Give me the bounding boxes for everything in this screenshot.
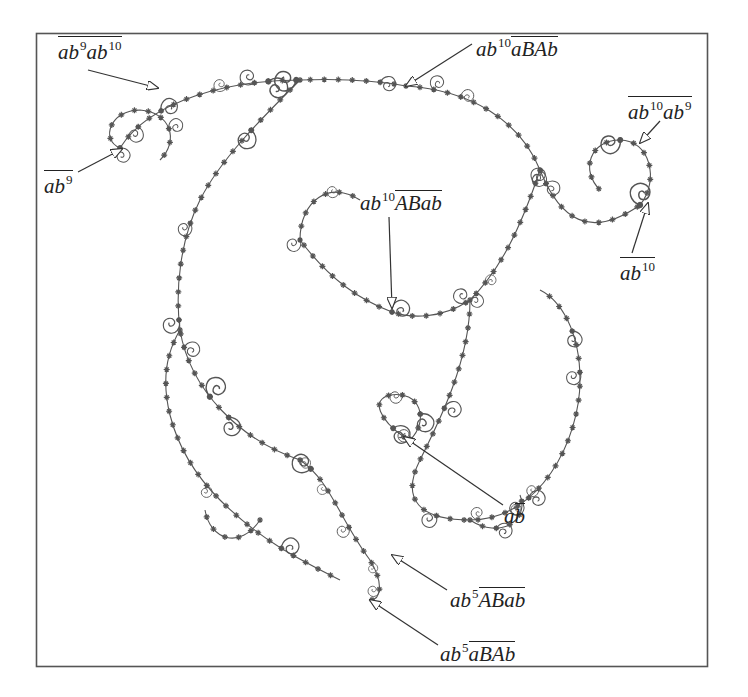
leaf-ornament xyxy=(381,415,387,421)
spiral-ornament xyxy=(451,286,473,307)
pointer-arrow xyxy=(632,203,648,253)
limit-curve xyxy=(300,240,392,312)
leaf-ornament xyxy=(166,408,172,414)
leaf-ornament xyxy=(386,392,392,398)
leaf-ornament xyxy=(363,78,369,84)
leaf-ornament xyxy=(609,217,615,223)
leaf-ornament xyxy=(364,297,370,303)
leaf-ornament xyxy=(298,223,304,229)
limit-curve xyxy=(590,140,651,205)
leaf-ornament xyxy=(576,397,582,403)
leaf-ornament xyxy=(528,193,534,199)
leaf-ornament xyxy=(436,418,442,424)
spiral-ornament xyxy=(526,489,547,508)
leaf-ornament xyxy=(118,112,124,118)
spiral-ornament xyxy=(366,560,380,574)
leaf-ornament xyxy=(573,411,579,417)
leaf-ornament xyxy=(164,367,170,373)
leaf-ornament xyxy=(444,90,450,96)
label-ab-bar: ab xyxy=(504,503,525,527)
leaf-ornament xyxy=(170,422,176,428)
leaf-ornament xyxy=(307,77,313,83)
leaf-ornament xyxy=(460,352,466,358)
spiral-ornament xyxy=(176,218,195,238)
arrows xyxy=(78,44,660,645)
leaf-ornament xyxy=(327,572,333,578)
leaf-ornament xyxy=(466,311,472,317)
pointer-arrow xyxy=(78,149,122,172)
limit-curve xyxy=(120,79,406,148)
leaf-ornament xyxy=(271,446,277,452)
leaf-ornament xyxy=(570,425,576,431)
pointer-arrow xyxy=(404,437,503,505)
pointer-arrow xyxy=(406,44,472,86)
leaf-ornament xyxy=(465,325,471,331)
leaf-ornament xyxy=(489,514,495,520)
leaf-ornament xyxy=(321,76,327,82)
leaf-ornament xyxy=(353,536,359,542)
leaf-ornament xyxy=(480,523,486,529)
pointer-arrow xyxy=(370,600,438,645)
leaf-ornament xyxy=(197,91,203,97)
limit-curve xyxy=(300,460,379,600)
leaf-ornament xyxy=(437,310,443,316)
pointer-arrow xyxy=(640,121,660,143)
leaf-ornament xyxy=(412,496,418,502)
leaf-ornament xyxy=(417,84,423,90)
spiral-ornament xyxy=(203,375,227,402)
leaf-ornament xyxy=(463,339,469,345)
leaf-ornament xyxy=(423,313,429,319)
leaf-ornament xyxy=(236,534,242,540)
spiral-ornament xyxy=(277,535,302,558)
leaf-ornament xyxy=(171,339,177,345)
leaf-ornament xyxy=(588,174,594,180)
label-ab9ab10: ab9ab10 xyxy=(58,36,122,63)
leaf-ornament xyxy=(517,219,523,225)
leaf-ornament xyxy=(498,257,504,263)
leaf-ornament xyxy=(109,122,115,128)
leaf-ornament xyxy=(505,245,511,251)
leaf-ornament xyxy=(164,394,170,400)
leaf-ornament xyxy=(163,380,169,386)
spiral-ornament xyxy=(262,74,290,100)
leaf-ornament xyxy=(303,210,309,216)
pointer-arrow xyxy=(88,70,158,88)
leaf-ornament xyxy=(467,517,473,523)
leaf-ornament xyxy=(259,440,265,446)
leaf-ornament xyxy=(210,88,216,94)
leaf-ornament xyxy=(176,275,182,281)
leaf-ornament xyxy=(564,315,570,321)
leaf-ornament xyxy=(587,160,593,166)
spiral-ornament xyxy=(112,144,133,165)
leaf-ornament xyxy=(576,355,582,361)
leaf-ornament xyxy=(409,313,415,319)
spiral-ornament xyxy=(387,297,413,322)
leaf-ornament xyxy=(349,77,355,83)
leaf-ornament xyxy=(523,206,529,212)
leaf-ornament xyxy=(451,379,457,385)
leaf-ornament xyxy=(409,483,415,489)
leaf-ornament xyxy=(205,182,211,188)
leaf-ornament xyxy=(376,402,382,408)
spiral-ornament xyxy=(442,400,463,418)
leaf-ornament xyxy=(596,219,602,225)
leaf-ornament xyxy=(186,358,192,364)
leaf-ornament xyxy=(553,463,559,469)
leaf-ornament xyxy=(175,435,181,441)
leaf-ornament xyxy=(565,438,571,444)
leaf-ornament xyxy=(647,176,653,182)
label-ab5ABab: ab5ABab xyxy=(450,587,525,611)
leaf-ornament xyxy=(183,96,189,102)
leaf-ornament xyxy=(192,370,198,376)
figure-stage: ab9ab10ab9ab10aBAbab10ab9ab10ab10ABababa… xyxy=(0,0,748,697)
spiral-ornament xyxy=(285,234,305,254)
label-ab10aBAb: ab10aBAb xyxy=(476,36,558,60)
leaf-ornament xyxy=(131,107,137,113)
leaf-ornament xyxy=(222,534,228,540)
label-ab10ABab: ab10ABab xyxy=(360,190,442,214)
leaf-ornament xyxy=(107,135,113,141)
leaf-ornament xyxy=(646,162,652,168)
leaf-ornament xyxy=(315,566,321,572)
label-ab10: ab10 xyxy=(620,257,655,284)
leaf-ornament xyxy=(339,512,345,518)
